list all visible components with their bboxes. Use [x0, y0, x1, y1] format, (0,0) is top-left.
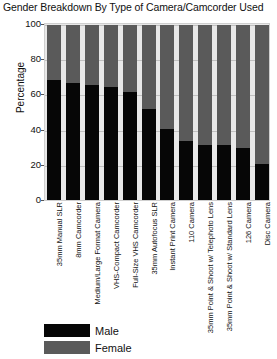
bar-segment-male[interactable]	[198, 145, 212, 201]
plot-inner	[45, 25, 269, 201]
bar-segment-male[interactable]	[142, 109, 156, 201]
x-axis-labels: 35mm Manual SLR8mm CamcorderMedium/Large…	[44, 202, 270, 312]
x-axis-label-slot: Disc Camera	[251, 202, 270, 312]
x-axis-label-slot: 110 Camera	[176, 202, 195, 312]
bar-segment-female[interactable]	[66, 25, 80, 83]
bar-segment-male[interactable]	[179, 141, 193, 201]
legend-swatch	[44, 341, 90, 354]
x-axis-label-slot: VHS-Compact Camcorder	[101, 202, 120, 312]
x-axis-label-slot: 35mm Manual SLR	[44, 202, 63, 312]
bar-group[interactable]	[85, 25, 99, 201]
bar-segment-female[interactable]	[236, 25, 250, 148]
bar-segment-female[interactable]	[47, 25, 61, 80]
x-axis-label-slot: Instant Print Camera	[157, 202, 176, 312]
x-axis-label-slot: 35mm Point & Shoot w/ Standard Lens	[214, 202, 233, 312]
legend-swatch	[44, 324, 90, 337]
bar-segment-male[interactable]	[66, 83, 80, 201]
x-axis-label-slot: 126 Camera	[232, 202, 251, 312]
bar-segment-male[interactable]	[47, 80, 61, 201]
bar-group[interactable]	[123, 25, 137, 201]
x-axis-label-slot: Medium/Large Format Camera	[82, 202, 101, 312]
plot-area	[44, 23, 270, 201]
bar-segment-male[interactable]	[104, 87, 118, 201]
y-axis-tick-label: 100	[7, 18, 41, 29]
chart-title: Gender Breakdown By Type of Camera/Camco…	[3, 1, 275, 13]
bar-group[interactable]	[198, 25, 212, 201]
legend-item[interactable]: Female	[44, 339, 194, 356]
bar-segment-male[interactable]	[85, 85, 99, 201]
chart-container: Gender Breakdown By Type of Camera/Camco…	[0, 0, 277, 359]
bar-group[interactable]	[255, 25, 269, 201]
x-axis-label-slot: 35mm Point & Shoot w/ Telephoto Lens	[195, 202, 214, 312]
bar-segment-female[interactable]	[160, 25, 174, 129]
bar-segment-male[interactable]	[236, 148, 250, 201]
bar-group[interactable]	[217, 25, 231, 201]
y-axis-tick-label: 60	[7, 88, 41, 99]
x-axis-label-slot: 8mm Camcorder	[63, 202, 82, 312]
x-axis-label-slot: 35mm Autofocus SLR	[138, 202, 157, 312]
bar-segment-male[interactable]	[255, 164, 269, 201]
legend-item[interactable]: Male	[44, 322, 194, 339]
bar-segment-female[interactable]	[179, 25, 193, 141]
y-axis-ticks: 020406080100	[4, 23, 41, 201]
y-axis-tick-label: 80	[7, 53, 41, 64]
y-axis-tick-label: 40	[7, 124, 41, 135]
y-axis-tick-label: 20	[7, 159, 41, 170]
bar-group[interactable]	[104, 25, 118, 201]
bar-segment-female[interactable]	[217, 25, 231, 145]
bar-segment-female[interactable]	[142, 25, 156, 109]
bar-group[interactable]	[47, 25, 61, 201]
bar-segment-male[interactable]	[160, 129, 174, 201]
x-axis-label-slot: Full-Size VHS Camcorder	[119, 202, 138, 312]
bar-group[interactable]	[179, 25, 193, 201]
bar-segment-female[interactable]	[85, 25, 99, 85]
bar-group[interactable]	[66, 25, 80, 201]
bar-segment-male[interactable]	[217, 145, 231, 201]
bar-group[interactable]	[160, 25, 174, 201]
bar-segment-female[interactable]	[198, 25, 212, 145]
legend-label: Male	[95, 325, 119, 337]
bar-segment-female[interactable]	[255, 25, 269, 164]
bar-segment-female[interactable]	[104, 25, 118, 87]
y-axis-tick-label: 0	[7, 194, 41, 205]
bar-segment-male[interactable]	[123, 92, 137, 201]
bar-group[interactable]	[142, 25, 156, 201]
x-axis-tick-label: Disc Camera	[264, 202, 272, 245]
bar-group[interactable]	[236, 25, 250, 201]
legend-label: Female	[95, 342, 132, 354]
bar-segment-female[interactable]	[123, 25, 137, 92]
chart-legend: MaleFemale	[44, 322, 194, 356]
